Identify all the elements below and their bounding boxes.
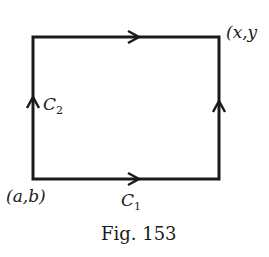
contour-diagram: (x,y C 2 (a,b) C 1 Fig. 153 [0,0,269,257]
c2-subscript: 2 [56,104,63,117]
c1-label: C [121,190,134,210]
c2-label: C [43,94,56,114]
figure-caption: Fig. 153 [101,223,177,244]
c1-subscript: 1 [134,200,141,213]
end-point-label: (x,y [226,22,258,42]
start-point-label: (a,b) [6,186,46,206]
